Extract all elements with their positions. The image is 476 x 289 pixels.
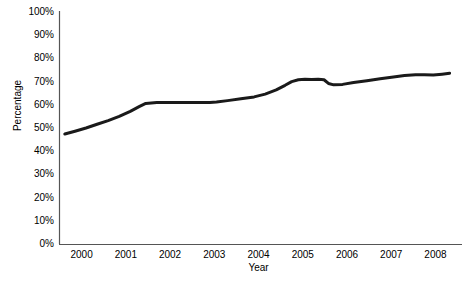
line-chart: Percentage 0%10%20%30%40%50%60%70%80%90%… [0, 0, 476, 289]
x-tick-label: 2008 [405, 249, 465, 260]
x-axis-title: Year [219, 262, 299, 273]
x-axis-tick-labels: 200020012002200320042005200620072008Year [0, 0, 476, 289]
